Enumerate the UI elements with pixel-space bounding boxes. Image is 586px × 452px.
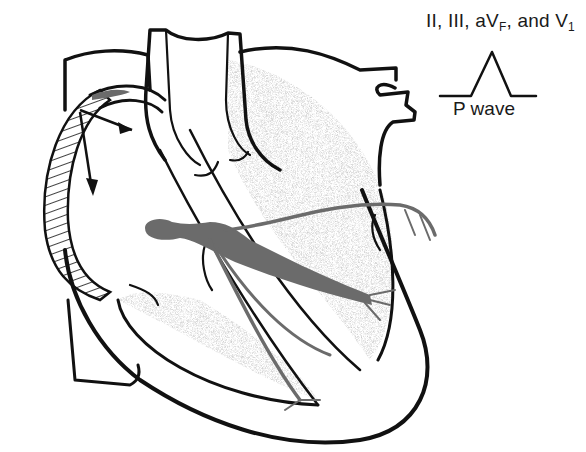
p-wave-label: P wave	[453, 98, 515, 120]
right-atrium-depolarized	[44, 90, 110, 300]
aorta-inner-left	[166, 30, 200, 165]
lead-subscript-1: 1	[568, 20, 575, 34]
ecg-lead-label: II, III, aVF, and V1	[426, 10, 575, 34]
lead-label-prefix: II, III, aV	[426, 10, 499, 31]
heart-illustration	[0, 0, 586, 452]
heart-diagram: II, III, aVF, and V1 P wave	[0, 0, 586, 452]
p-wave-trace	[440, 52, 536, 96]
lead-label-mid: , and V	[506, 10, 568, 31]
